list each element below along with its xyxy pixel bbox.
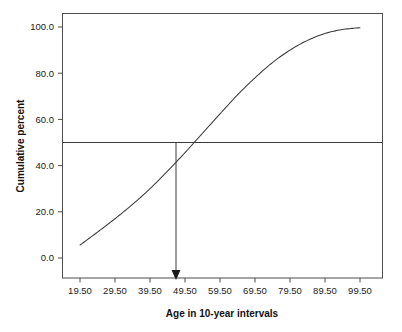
y-axis-ticks: [58, 27, 63, 258]
x-tick-label-69-50: 69.50: [243, 285, 267, 296]
plot-frame: [63, 14, 383, 279]
x-tick-label-79-50: 79.50: [278, 285, 302, 296]
y-tick-label-80: 80.0: [36, 68, 55, 79]
x-tick-label-29-50: 29.50: [103, 285, 127, 296]
y-tick-label-40: 40.0: [36, 160, 55, 171]
y-tick-label-100: 100.0: [30, 21, 54, 32]
y-tick-label-0: 0.0: [41, 252, 54, 263]
x-tick-label-39-50: 39.50: [138, 285, 162, 296]
y-tick-label-60: 60.0: [36, 114, 55, 125]
x-tick-label-19-50: 19.50: [68, 285, 92, 296]
x-axis-tick-labels: 19.50 29.50 39.50 49.50 59.50 69.50 79.5…: [68, 285, 372, 296]
y-axis-tick-labels: 0.0 20.0 40.0 60.0 80.0 100.0: [30, 21, 54, 263]
x-axis-ticks: [80, 278, 360, 283]
x-tick-label-89-50: 89.50: [313, 285, 337, 296]
x-axis-title: Age in 10-year intervals: [166, 308, 279, 319]
y-axis-title: Cumulative percent: [15, 99, 26, 192]
cumulative-percent-curve: [80, 28, 360, 245]
x-tick-label-99-50: 99.50: [348, 285, 372, 296]
median-arrow: [172, 143, 181, 280]
x-tick-label-59-50: 59.50: [208, 285, 232, 296]
chart-figure: 0.0 20.0 40.0 60.0 80.0 100.0 19.50 29.5…: [0, 0, 402, 332]
chart-canvas: 0.0 20.0 40.0 60.0 80.0 100.0 19.50 29.5…: [0, 0, 402, 332]
y-tick-label-20: 20.0: [36, 206, 55, 217]
x-tick-label-49-50: 49.50: [173, 285, 197, 296]
